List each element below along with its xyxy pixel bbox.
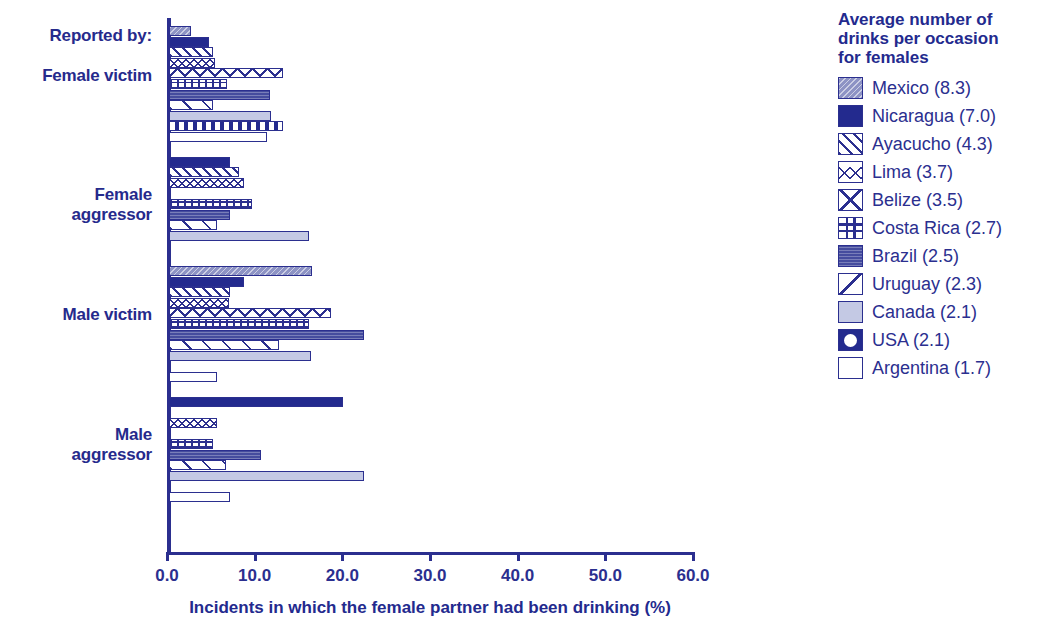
bar-uruguay-female-victim (169, 100, 213, 110)
bar-nicaragua-male-victim (169, 277, 244, 287)
bar-canada-male-aggressor (169, 471, 364, 481)
legend-label-lima: Lima (3.7) (872, 162, 953, 183)
legend-item-costarica[interactable]: Costa Rica (2.7) (838, 214, 1038, 242)
legend-label-argentina: Argentina (1.7) (872, 358, 991, 379)
x-tick-60.0 (692, 552, 695, 561)
x-tick-0.0 (166, 552, 169, 561)
bar-argentina-male-victim (169, 372, 217, 382)
x-tick-30.0 (429, 552, 432, 561)
x-tick-label-60.0: 60.0 (663, 566, 723, 586)
bar-uruguay-male-aggressor (169, 460, 226, 470)
swatch-costa-rica-icon (838, 217, 863, 239)
category-label-male-victim: Male victim (0, 305, 152, 325)
legend-title: Average number of drinks per occasion fo… (838, 10, 1038, 67)
legend-label-uruguay: Uruguay (2.3) (872, 274, 982, 295)
category-label-female-victim: Female victim (0, 66, 152, 86)
bar-nicaragua-male-aggressor (169, 397, 343, 407)
legend-label-canada: Canada (2.1) (872, 302, 977, 323)
legend-item-canada[interactable]: Canada (2.1) (838, 298, 1038, 326)
swatch-nicaragua-icon (838, 105, 863, 127)
bar-uruguay-female-aggressor (169, 220, 217, 230)
x-tick-label-40.0: 40.0 (488, 566, 548, 586)
legend-item-mexico[interactable]: Mexico (8.3) (838, 74, 1038, 102)
legend-label-costarica: Costa Rica (2.7) (872, 218, 1002, 239)
swatch-uruguay-icon (838, 273, 863, 295)
bar-lima-female-victim (169, 58, 215, 68)
bar-nicaragua-female-aggressor (169, 157, 230, 167)
bar-belize-male-victim (169, 308, 331, 318)
x-tick-50.0 (604, 552, 607, 561)
x-tick-label-0.0: 0.0 (137, 566, 197, 586)
legend-item-lima[interactable]: Lima (3.7) (838, 158, 1038, 186)
legend-item-belize[interactable]: Belize (3.5) (838, 186, 1038, 214)
legend-item-argentina[interactable]: Argentina (1.7) (838, 354, 1038, 382)
legend-rows: Mexico (8.3)Nicaragua (7.0)Ayacucho (4.3… (838, 74, 1038, 382)
swatch-argentina-icon (838, 357, 863, 379)
bar-argentina-female-victim (169, 132, 267, 142)
bar-belize-female-victim (169, 68, 283, 78)
bar-usa-female-victim (169, 121, 283, 131)
swatch-mexico-icon (838, 77, 863, 99)
legend-label-brazil: Brazil (2.5) (872, 246, 959, 267)
x-tick-label-20.0: 20.0 (312, 566, 372, 586)
bar-costarica-male-aggressor (169, 439, 213, 449)
x-tick-label-30.0: 30.0 (400, 566, 460, 586)
x-tick-20.0 (341, 552, 344, 561)
category-label-female-aggressor: Femaleaggressor (0, 185, 152, 225)
legend: Average number of drinks per occasion fo… (838, 10, 1038, 382)
bar-lima-female-aggressor (169, 178, 244, 188)
x-tick-label-10.0: 10.0 (225, 566, 285, 586)
legend-item-ayacucho[interactable]: Ayacucho (4.3) (838, 130, 1038, 158)
bar-argentina-male-aggressor (169, 492, 230, 502)
legend-label-nicaragua: Nicaragua (7.0) (872, 106, 996, 127)
bar-brazil-female-aggressor (169, 210, 230, 220)
legend-item-usa[interactable]: USA (2.1) (838, 326, 1038, 354)
bar-canada-female-victim (169, 111, 271, 121)
bar-mexico-female-victim (169, 26, 191, 36)
bar-nicaragua-female-victim (169, 37, 209, 47)
legend-label-usa: USA (2.1) (872, 330, 950, 351)
swatch-brazil-icon (838, 245, 863, 267)
bar-canada-female-aggressor (169, 231, 309, 241)
bar-lima-male-victim (169, 298, 229, 308)
bar-canada-male-victim (169, 351, 311, 361)
x-axis-title: Incidents in which the female partner ha… (0, 598, 860, 618)
bar-ayacucho-male-victim (169, 287, 230, 297)
swatch-ayacucho-icon (838, 133, 863, 155)
bar-lima-male-aggressor (169, 418, 217, 428)
bar-brazil-male-victim (169, 330, 364, 340)
bar-ayacucho-female-victim (169, 47, 213, 57)
bar-brazil-male-aggressor (169, 450, 261, 460)
bar-costarica-female-victim (169, 79, 227, 89)
plot-area: 0.010.020.030.040.050.060.0 (167, 18, 697, 552)
bar-mexico-male-victim (169, 266, 312, 276)
legend-item-uruguay[interactable]: Uruguay (2.3) (838, 270, 1038, 298)
category-label-male-aggressor: Maleaggressor (0, 425, 152, 465)
bar-brazil-female-victim (169, 90, 270, 100)
bar-ayacucho-female-aggressor (169, 167, 239, 177)
legend-label-mexico: Mexico (8.3) (872, 78, 971, 99)
reported-by-label: Reported by: (0, 26, 152, 46)
bar-chart-figure: Reported by: Female victim Femaleaggress… (0, 0, 1038, 626)
swatch-usa-icon (838, 329, 863, 351)
x-tick-10.0 (254, 552, 257, 561)
legend-label-belize: Belize (3.5) (872, 190, 963, 211)
bar-costarica-female-aggressor (169, 199, 252, 209)
legend-item-brazil[interactable]: Brazil (2.5) (838, 242, 1038, 270)
legend-item-nicaragua[interactable]: Nicaragua (7.0) (838, 102, 1038, 130)
legend-label-ayacucho: Ayacucho (4.3) (872, 134, 993, 155)
x-tick-label-50.0: 50.0 (575, 566, 635, 586)
bar-costarica-male-victim (169, 319, 309, 329)
bar-uruguay-male-victim (169, 340, 279, 350)
swatch-belize-icon (838, 189, 863, 211)
x-tick-40.0 (517, 552, 520, 561)
swatch-lima-icon (838, 161, 863, 183)
swatch-canada-icon (838, 301, 863, 323)
